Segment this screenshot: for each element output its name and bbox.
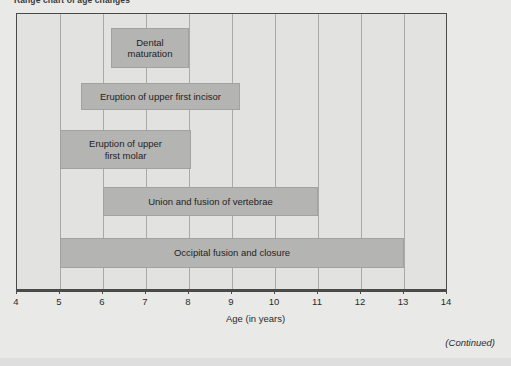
x-tick-label-7: 7 xyxy=(142,296,147,307)
x-tick-14 xyxy=(446,290,447,294)
x-tick-label-4: 4 xyxy=(13,296,18,307)
x-tick-label-11: 11 xyxy=(312,296,322,307)
range-bar-dental-maturation: Dental maturation xyxy=(111,28,189,68)
x-tick-6 xyxy=(102,290,103,294)
continued-note: (Continued) xyxy=(445,337,495,348)
x-tick-11 xyxy=(317,290,318,294)
figure-container: Range chart of age changes Dental matura… xyxy=(0,0,511,366)
x-tick-label-9: 9 xyxy=(228,296,233,307)
x-tick-5 xyxy=(59,290,60,294)
x-tick-label-5: 5 xyxy=(56,296,61,307)
x-tick-label-8: 8 xyxy=(185,296,190,307)
x-tick-8 xyxy=(188,290,189,294)
x-tick-9 xyxy=(231,290,232,294)
x-tick-label-14: 14 xyxy=(441,296,452,307)
range-bar-union-fusion-vertebrae: Union and fusion of vertebrae xyxy=(103,187,318,216)
gridline-13 xyxy=(404,14,405,289)
page-bottom-strip xyxy=(0,358,511,366)
x-tick-7 xyxy=(145,290,146,294)
figure-title: Range chart of age changes xyxy=(14,0,130,6)
x-tick-label-12: 12 xyxy=(355,296,366,307)
range-bar-eruption-upper-first-molar: Eruption of upper first molar xyxy=(60,130,191,169)
plot-area: Dental maturation Eruption of upper firs… xyxy=(16,13,447,290)
x-tick-4 xyxy=(16,290,17,294)
x-tick-13 xyxy=(403,290,404,294)
x-tick-12 xyxy=(360,290,361,294)
range-bar-occipital-fusion-closure: Occipital fusion and closure xyxy=(60,238,404,268)
range-bar-eruption-upper-first-incisor: Eruption of upper first incisor xyxy=(81,83,240,110)
x-axis-title: Age (in years) xyxy=(0,313,511,324)
x-tick-10 xyxy=(274,290,275,294)
x-tick-label-13: 13 xyxy=(398,296,409,307)
x-tick-label-10: 10 xyxy=(269,296,280,307)
x-tick-label-6: 6 xyxy=(99,296,104,307)
